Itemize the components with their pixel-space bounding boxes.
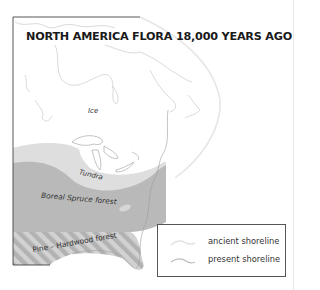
page-edge-line: [293, 0, 294, 290]
legend-item-present-shoreline: present shoreline: [158, 253, 287, 269]
map-legend: ancient shoreline present shoreline: [157, 224, 286, 277]
region-label-ice: Ice: [88, 107, 98, 115]
map-title: NORTH AMERICA FLORA 18,000 YEARS AGO: [26, 30, 292, 43]
legend-label: present shoreline: [208, 254, 280, 264]
present-shoreline-swatch-icon: [170, 256, 196, 266]
ancient-shoreline-swatch-icon: [170, 238, 196, 248]
legend-item-ancient-shoreline: ancient shoreline: [158, 235, 287, 251]
legend-label: ancient shoreline: [208, 236, 279, 246]
